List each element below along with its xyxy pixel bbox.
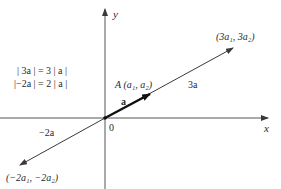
vector-a-label: a <box>121 97 126 107</box>
diagram-canvas <box>0 0 281 189</box>
vector-neg2a-label: −2a <box>39 128 54 138</box>
y-axis-label: y <box>113 9 118 20</box>
vector-neg2a-line <box>20 118 105 165</box>
equation-3a: | 3a | = 3 | a | <box>17 66 67 76</box>
origin-point <box>103 116 107 120</box>
point-3a-label: (3a₁, 3a₂) <box>216 32 255 42</box>
vector-scaling-diagram: y x 0 | 3a | = 3 | a | |−2a | = 2 | a | … <box>0 0 281 189</box>
origin-label: 0 <box>109 123 114 133</box>
vector-3a-label: 3a <box>188 80 197 90</box>
point-neg2a-label: (−2a₁, −2a₂) <box>6 173 58 183</box>
vector-a-line <box>105 94 150 118</box>
x-axis-label: x <box>264 123 269 134</box>
equation-neg2a: |−2a | = 2 | a | <box>14 79 67 89</box>
point-a-label: A (a₁, a₂) <box>115 80 152 90</box>
